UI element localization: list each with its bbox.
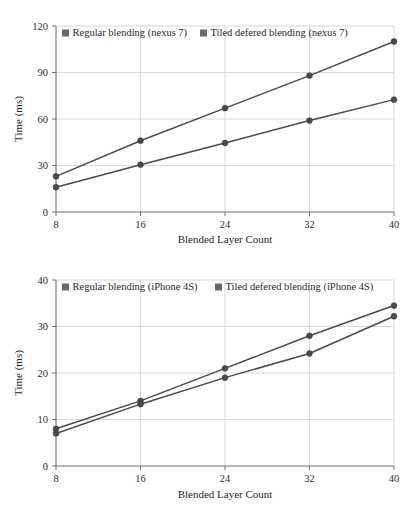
y-axis-title-iphone4s: Time (ms) xyxy=(12,350,25,396)
x-tick-label: 32 xyxy=(304,219,315,230)
chart-figure-iphone4s: 010203040 816243240 Regular blending (iP… xyxy=(0,258,410,513)
chart-page: 0306090120 816243240 Regular blending (n… xyxy=(0,0,410,513)
x-tick-label: 40 xyxy=(389,473,400,484)
y-axis-title-nexus7: Time (ms) xyxy=(12,96,25,142)
data-point xyxy=(53,184,59,190)
x-tick-label: 32 xyxy=(304,473,315,484)
legend-swatch-0 xyxy=(62,284,69,291)
y-tick-label: 60 xyxy=(38,114,49,125)
legend-swatch-1 xyxy=(200,30,207,37)
data-point xyxy=(222,140,228,146)
data-point xyxy=(391,97,397,103)
legend-iphone4s: Regular blending (iPhone 4S)Tiled defere… xyxy=(62,281,374,293)
data-point xyxy=(391,313,397,319)
legend-label-1: Tiled defered blending (iPhone 4S) xyxy=(226,281,374,293)
x-axis-title-iphone4s: Blended Layer Count xyxy=(178,488,273,500)
data-point xyxy=(222,375,228,381)
data-point xyxy=(222,365,228,371)
data-point xyxy=(53,173,59,179)
legend-label-0: Regular blending (iPhone 4S) xyxy=(73,281,199,293)
data-point xyxy=(53,431,59,437)
chart-svg-nexus7: 0306090120 816243240 Regular blending (n… xyxy=(0,0,410,256)
chart-figure-nexus7: 0306090120 816243240 Regular blending (n… xyxy=(0,0,410,256)
data-point xyxy=(138,138,144,144)
x-axis-ticks-iphone4s: 816243240 xyxy=(53,466,399,484)
gridlines-nexus7 xyxy=(56,26,394,212)
legend-label-0: Regular blending (nexus 7) xyxy=(73,27,188,39)
y-tick-label: 0 xyxy=(43,461,48,472)
y-tick-label: 90 xyxy=(38,67,49,78)
y-tick-label: 30 xyxy=(38,321,49,332)
x-tick-label: 24 xyxy=(220,473,231,484)
data-point xyxy=(138,401,144,407)
plot-area-iphone4s: 010203040 816243240 Regular blending (iP… xyxy=(38,275,400,484)
x-tick-label: 8 xyxy=(53,473,58,484)
legend-swatch-0 xyxy=(62,30,69,37)
y-axis-ticks-iphone4s: 010203040 xyxy=(38,275,57,472)
x-axis-ticks-nexus7: 816243240 xyxy=(53,212,399,230)
data-point xyxy=(307,73,313,79)
data-point xyxy=(138,162,144,168)
data-point xyxy=(307,333,313,339)
legend-nexus7: Regular blending (nexus 7)Tiled defered … xyxy=(62,27,348,39)
data-point xyxy=(307,118,313,124)
legend-swatch-1 xyxy=(215,284,222,291)
data-point xyxy=(222,105,228,111)
y-tick-label: 30 xyxy=(38,160,49,171)
chart-svg-iphone4s: 010203040 816243240 Regular blending (iP… xyxy=(0,258,410,513)
data-point xyxy=(391,39,397,45)
y-tick-label: 40 xyxy=(38,275,49,286)
x-tick-label: 24 xyxy=(220,219,231,230)
x-axis-title-nexus7: Blended Layer Count xyxy=(178,233,273,245)
x-tick-label: 16 xyxy=(135,219,146,230)
legend-label-1: Tiled defered blending (nexus 7) xyxy=(211,27,349,39)
y-tick-label: 20 xyxy=(38,368,49,379)
y-tick-label: 10 xyxy=(38,414,49,425)
gridlines-iphone4s xyxy=(56,280,394,466)
x-tick-label: 8 xyxy=(53,219,58,230)
plot-area-nexus7: 0306090120 816243240 Regular blending (n… xyxy=(32,21,399,230)
x-tick-label: 16 xyxy=(135,473,146,484)
y-axis-ticks-nexus7: 0306090120 xyxy=(32,21,56,218)
y-tick-label: 0 xyxy=(43,207,48,218)
data-point xyxy=(391,303,397,309)
y-tick-label: 120 xyxy=(32,21,48,32)
x-tick-label: 40 xyxy=(389,219,400,230)
data-point xyxy=(307,351,313,357)
